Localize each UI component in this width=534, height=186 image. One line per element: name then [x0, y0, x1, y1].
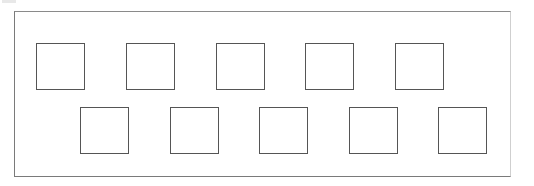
top-row-square-3 [216, 43, 265, 90]
top-row-square-2 [126, 43, 175, 90]
top-row-square-4 [305, 43, 354, 90]
bottom-row-square-4 [349, 107, 398, 154]
bottom-row-square-5 [438, 107, 487, 154]
corner-smudge [2, 0, 16, 3]
bottom-row-square-3 [259, 107, 308, 154]
top-row-square-5 [395, 43, 444, 90]
bottom-row-square-1 [80, 107, 129, 154]
bottom-row-square-2 [170, 107, 219, 154]
top-row-square-1 [36, 43, 85, 90]
